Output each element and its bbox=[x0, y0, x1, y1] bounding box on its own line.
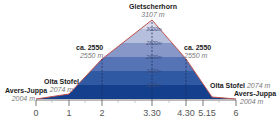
band-label-2200: 2200m bbox=[146, 82, 161, 88]
axis-label-1: 1 bbox=[66, 108, 71, 118]
waypoint-avers-juppa-right: Avers-Juppa 2004 m bbox=[234, 90, 276, 106]
axis-ticks bbox=[36, 100, 236, 106]
axis-label-5-15: 5.15 bbox=[198, 108, 216, 118]
summit-elevation: 3107 m bbox=[128, 11, 178, 19]
summit-label: Gletscherhorn 3107 m bbox=[128, 3, 178, 19]
axis-label-0: 0 bbox=[33, 108, 38, 118]
band-label-2800: 2800m bbox=[146, 40, 161, 46]
axis-label-2: 2 bbox=[99, 108, 104, 118]
axis-label-3-30: 3.30 bbox=[143, 108, 161, 118]
summit-name: Gletscherhorn bbox=[128, 3, 178, 11]
waypoint-olta-stofel-left: Olta Stofel 2074 m bbox=[44, 78, 79, 94]
axis-label-4-30: 4.30 bbox=[177, 108, 195, 118]
axis-label-6: 6 bbox=[233, 108, 238, 118]
band-label-2400: 2400m bbox=[146, 68, 161, 74]
minor-ticks bbox=[52, 100, 219, 103]
band-label-3000: 3000m bbox=[146, 26, 161, 32]
waypoint-olta-stofel-right: Olta Stofel 2074 m bbox=[210, 82, 270, 90]
waypoint-ca2550-left: ca. 2550 2550 m bbox=[76, 44, 103, 60]
band-label-2600: 2600m bbox=[146, 54, 161, 60]
waypoint-ca2550-right: ca. 2550 2550 m bbox=[184, 44, 211, 60]
waypoint-avers-juppa-left: Avers-Juppa 2004 m bbox=[5, 87, 47, 103]
